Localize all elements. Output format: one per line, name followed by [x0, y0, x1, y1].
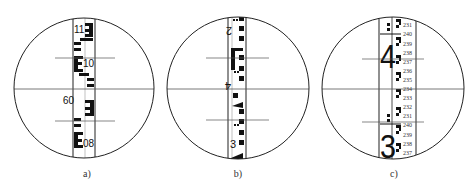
scale-label: 237: [403, 59, 412, 65]
panel-c: 4 3 231 240 239 238 237 236 235 234 233 …: [310, 0, 476, 195]
scale-label: 240: [403, 31, 412, 37]
scale-label: 231: [403, 22, 412, 28]
caption-b: b): [223, 168, 253, 179]
staff-number: 4: [225, 80, 231, 92]
panel-b: 2 4 3 b): [155, 0, 320, 195]
staff-number: 10: [83, 58, 95, 69]
staff-number: 09: [62, 94, 74, 105]
staff-number: 11: [74, 24, 85, 35]
reticle-view-c: 4 3 231 240 239 238 237 236 235 234 233 …: [310, 0, 476, 195]
panel-a: 11 10 09 08 a): [0, 0, 160, 195]
caption-a: a): [72, 168, 102, 179]
reticle-view-b: 2 4 3: [155, 0, 320, 195]
staff-number: 3: [230, 138, 236, 150]
caption-c: c): [379, 168, 409, 179]
staff-number: 2: [226, 25, 232, 37]
scale-label: 233: [403, 95, 412, 101]
scale-label: 237: [403, 150, 412, 156]
scale-label: 239: [403, 41, 412, 47]
main-number: 4: [380, 37, 396, 75]
scale-label: 235: [403, 77, 412, 83]
scale-label: 238: [403, 141, 412, 147]
scale-label: 231: [403, 113, 412, 119]
scale-label: 239: [403, 132, 412, 138]
reticle-view-a: 11 10 09 08: [0, 0, 160, 195]
scale-label: 240: [403, 122, 412, 128]
scale-label: 238: [403, 50, 412, 56]
scale-label: 236: [403, 68, 412, 74]
staff-number: 08: [83, 138, 95, 149]
scale-label: 232: [403, 104, 412, 110]
